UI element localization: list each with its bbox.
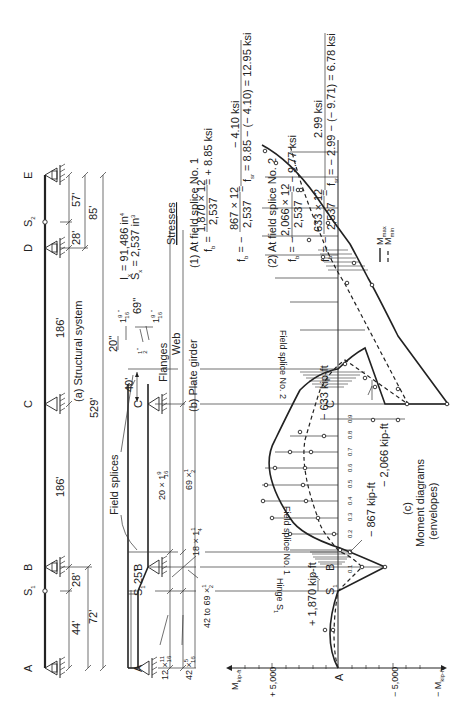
section-web-thk: 12''	[136, 348, 148, 354]
span-tick-0.5: 0.5	[347, 479, 353, 488]
span-tick-0.3: 0.3	[347, 512, 353, 521]
dim-d-e: 85'	[87, 206, 99, 220]
field-splices-label: Field splices	[108, 454, 120, 515]
dim-s2-e: 57'	[70, 193, 82, 207]
annotation-2066: − 2,066 kip-ft	[378, 423, 390, 487]
splice2-fb2-den: 2,537	[325, 202, 337, 230]
moment-label-a: A	[333, 673, 345, 681]
span-tick-0.1: 0.1	[347, 564, 353, 573]
splice1-fb2-den: 2,537	[241, 200, 253, 228]
label-b: B	[22, 564, 34, 571]
caption-plate-girder: (b) Plate girder	[187, 339, 199, 412]
caption-envelopes: (envelopes)	[427, 483, 439, 540]
splice1-fb2-lhs: fb = −	[235, 237, 249, 262]
support-e-icon	[45, 164, 65, 185]
caption-moment-diagrams: Moment diagrams	[414, 458, 426, 547]
dim-b-c: 186'	[54, 477, 66, 497]
section-flange-thk: 1916''	[117, 310, 130, 323]
section-web-depth: 69''	[131, 298, 143, 314]
splice1-fb2-result: − 4.10 ksi	[229, 101, 241, 148]
tick-label-neg: − 5,000	[390, 667, 400, 697]
legend: Mmax Mmin	[375, 226, 395, 262]
caption-structural-system: (a) Structural system	[72, 301, 84, 402]
dim-25: 25'	[132, 570, 144, 584]
span-tick-0.7: 0.7	[347, 447, 353, 456]
hinge-s1-label: Hinge S1	[273, 578, 285, 614]
span-tick-0.8: 0.8	[347, 430, 353, 439]
label-e: E	[22, 172, 34, 179]
section-flange-thk-2: 1916''	[150, 310, 163, 323]
splice1-fb2-num: 867 × 12	[228, 187, 240, 230]
support-b-icon	[45, 556, 65, 577]
hatch-splice2	[300, 250, 368, 387]
hinge-s1-icon	[43, 589, 47, 593]
label-a: A	[22, 664, 34, 672]
support-c-icon	[45, 393, 65, 414]
plate-girder: A S1 B C	[107, 212, 214, 680]
caption-c: (c)	[401, 502, 413, 515]
splice2-fsr: fsr = − 2.99 − (− 9.71) = 6.78 ksi	[325, 33, 339, 186]
web-mid-size: 69 ×12	[183, 468, 196, 490]
label-s2: S2	[22, 216, 36, 227]
support-d-icon	[45, 237, 65, 258]
section-web-label: Web	[170, 333, 182, 355]
splice1-fb1-lhs: fb =	[202, 236, 216, 252]
dim-a-s1: 44'	[70, 621, 82, 635]
annotation-633: − 633 kip-ft	[318, 365, 330, 420]
splice2-fb1-den: 2,537	[292, 200, 304, 228]
splice1-fb2-eq: =	[235, 186, 247, 192]
splice1-fb1-den: 2,537	[207, 197, 219, 225]
field-splice-2-label: Field splice No. 2	[278, 330, 288, 399]
annotation-1870: + 1,870 kip-ft	[306, 562, 318, 626]
section-properties: Ix = 91,486 in4 Sx = 2,537 in3	[118, 212, 143, 280]
splice2-fb1-lhs: fb = −	[286, 237, 300, 262]
splice1-fb1-num: 1,870 × 12	[195, 180, 207, 232]
dim-s1-b: 28'	[70, 573, 82, 587]
span-tick-0.4: 0.4	[347, 496, 353, 505]
label-s1: S1	[22, 585, 36, 596]
hinge-s2-icon	[43, 220, 47, 224]
plate-girder-figure: A S1 B C D S2 E 44' 28' 72' 186' 186' 28…	[0, 0, 472, 703]
splice2-fb2-result: 2.99 ksi	[312, 100, 324, 138]
tick-label-pos: + 5,000	[268, 667, 278, 697]
pg-support-c-icon	[148, 393, 167, 414]
dim-40-arrow	[135, 372, 139, 402]
stresses-panel: Stresses (1) At field splice No. 1 fb = …	[165, 33, 339, 268]
web-taper-leader	[188, 570, 198, 578]
flange-end-leader	[160, 615, 168, 645]
section-flange-width: 20''	[107, 336, 119, 352]
dim-40: 40'	[123, 378, 135, 392]
web-taper-size: 42 to 69 ×12	[201, 584, 214, 628]
prop-sx: Sx = 2,537 in3	[129, 214, 143, 280]
section-flanges-label: Flanges	[157, 342, 169, 382]
pg-support-b-icon	[148, 556, 167, 577]
stresses-title: Stresses	[165, 202, 177, 245]
splice1-fb1-result: = + 8.85 ksi	[202, 128, 214, 185]
dim-d-s2: 28'	[70, 231, 82, 245]
flange-mid-size: 20 × 1916	[156, 470, 169, 500]
axis-label-neg: − Mkip-ft	[433, 668, 445, 697]
dimension-lines	[60, 172, 106, 671]
splice1-fsr: fsr = 8.85 − (− 4.10) = 12.95 ksi	[241, 33, 255, 182]
support-a-icon	[45, 657, 65, 678]
label-d: D	[22, 244, 34, 252]
moment-label-s1: S1	[324, 584, 338, 595]
splice2-fb2-eq: =	[319, 190, 331, 196]
span-tick-0.2: 0.2	[347, 529, 353, 538]
field-splice-1-label: Field splice No. 1	[282, 506, 292, 575]
splice2-heading: (2) At field splice No. 2	[266, 158, 278, 268]
figure: A S1 B C D S2 E 44' 28' 72' 186' 186' 28…	[0, 0, 472, 703]
dim-c-d: 186'	[54, 318, 66, 338]
flange-b-size: 18 × 114	[190, 527, 203, 556]
axis-label-pos: Mkip-ft	[230, 669, 242, 690]
annotation-867: − 867 kip-ft	[365, 482, 377, 537]
span-tick-0.9: 0.9	[347, 414, 353, 423]
span-tick-0.6: 0.6	[347, 463, 353, 472]
pg-label-c: C	[132, 400, 144, 408]
axis-arrow-pos-icon	[226, 665, 232, 671]
dim-a-b: 72'	[87, 610, 99, 624]
dim-total: 529'	[88, 398, 100, 418]
structural-system: A S1 B C D S2 E 44' 28' 72' 186' 186' 28…	[22, 164, 106, 678]
moment-label-b: B	[324, 564, 336, 571]
label-c: C	[22, 400, 34, 408]
